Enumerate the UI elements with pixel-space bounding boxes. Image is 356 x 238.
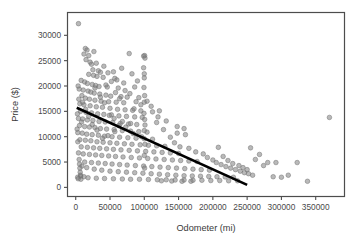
data-point [82,124,87,129]
y-tick-label: 30000 [38,30,61,40]
data-point [157,109,162,114]
data-point [84,132,89,137]
scatter-plot: 0500001000001500002000002500003000003500… [0,0,356,238]
data-point [209,178,214,183]
data-point [95,139,100,144]
data-point [110,162,115,167]
data-point [76,21,81,26]
data-point [261,163,266,168]
data-point [85,48,90,53]
data-point [150,164,155,169]
data-point [214,160,219,165]
data-point [89,138,94,143]
data-point [116,86,121,91]
data-point [127,51,132,56]
data-point [90,132,95,137]
data-point [108,140,113,145]
data-point [117,96,122,101]
data-point [174,173,179,178]
data-point [265,160,270,165]
data-point [87,97,92,102]
data-point [75,139,80,144]
data-point [130,142,135,147]
data-point [166,165,171,170]
data-point [115,107,120,112]
data-point [116,169,121,174]
data-point [122,141,127,146]
data-point [91,146,96,151]
data-point [84,165,89,170]
data-point [169,179,174,184]
x-tick-label: 200000 [199,202,227,212]
data-point [93,98,98,103]
data-point [93,86,98,91]
y-tick-label: 5000 [43,157,62,167]
x-tick-label: 350000 [302,202,330,212]
data-point [224,164,229,169]
data-point [123,88,128,93]
data-point [233,167,238,172]
data-point [75,112,80,117]
y-tick-label: 0 [56,182,61,192]
data-point [170,158,175,163]
data-point [257,152,262,157]
data-point [295,160,300,165]
data-point [180,179,185,184]
data-point [175,124,180,129]
y-tick-label: 10000 [38,132,61,142]
data-point [205,155,210,160]
data-point [115,78,120,83]
data-point [126,135,131,140]
data-point [279,175,284,180]
data-point [137,156,142,161]
data-point [104,93,109,98]
data-point [120,177,125,182]
y-tick-label: 25000 [38,56,61,66]
data-point [149,171,154,176]
data-point [100,136,105,141]
data-point [86,175,91,180]
data-point [253,157,258,162]
data-point [189,179,194,184]
data-point [91,67,96,72]
data-point [134,99,139,104]
x-tick-label: 0 [73,202,78,212]
data-point [142,93,147,98]
data-point [143,142,148,147]
data-point [175,131,180,136]
data-point [113,129,118,134]
data-point [164,119,169,124]
x-tick-label: 250000 [233,202,261,212]
data-point [124,114,129,119]
data-point [187,146,192,151]
data-point [109,79,114,84]
x-tick-label: 150000 [165,202,193,212]
data-point [305,179,310,184]
data-point [123,108,128,113]
data-point [121,155,126,160]
y-axis-title: Price ($) [10,87,20,122]
data-point [286,173,291,178]
data-point [111,147,116,152]
data-point [128,177,133,182]
data-point [86,72,91,77]
data-point [117,114,122,119]
data-point [156,115,161,120]
data-point [94,176,99,181]
data-point [134,122,139,127]
data-point [130,72,135,77]
data-point [154,120,159,125]
data-point [271,174,276,179]
data-point [102,112,107,117]
data-point [88,103,93,108]
data-point [113,90,118,95]
data-point [161,127,166,132]
data-point [168,135,173,140]
data-point [99,153,104,158]
data-point [132,115,137,120]
data-point [190,174,195,179]
data-point [96,133,101,138]
data-point [100,105,105,110]
data-point [92,91,97,96]
data-point [141,65,146,70]
